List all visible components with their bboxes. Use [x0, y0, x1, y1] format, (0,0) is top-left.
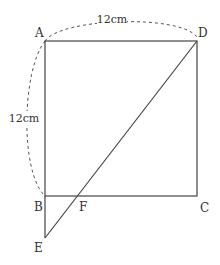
point-label-d: D: [198, 26, 208, 40]
point-label-b: B: [34, 200, 43, 214]
left-dimension-label: 12cm: [9, 112, 40, 125]
point-label-f: F: [79, 200, 87, 214]
square-abcd: [45, 41, 197, 196]
geometry-diagram: 12cm 12cm A D B F C E: [0, 0, 220, 265]
point-label-c: C: [200, 201, 209, 215]
point-label-e: E: [34, 241, 43, 255]
point-label-a: A: [34, 26, 44, 40]
segment-de: [45, 41, 197, 238]
top-dimension-label: 12cm: [97, 13, 128, 26]
